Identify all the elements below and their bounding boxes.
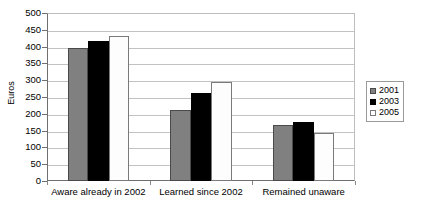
y-axis-tick-label: 0	[36, 176, 41, 186]
y-axis-tick-label: 150	[25, 126, 41, 136]
legend-item[interactable]: 2003	[370, 96, 399, 107]
y-axis-tickmark	[42, 147, 47, 148]
x-axis-tick-label: Remained unaware	[252, 186, 355, 197]
bar	[170, 110, 191, 181]
legend-swatch-icon	[370, 88, 376, 94]
legend-swatch-icon	[370, 110, 376, 116]
x-axis-tick-label: Learned since 2002	[150, 186, 253, 197]
bar-chart: Euros 500450400350300250200150100500 Awa…	[0, 0, 421, 215]
legend-item-label: 2001	[379, 86, 399, 95]
x-axis-tick-labels: Aware already in 2002Learned since 2002R…	[47, 186, 355, 206]
x-axis-tickmark	[47, 181, 48, 185]
y-axis-tickmark	[42, 131, 47, 132]
y-axis-tickmark	[42, 13, 47, 14]
y-axis-tick-label: 500	[25, 8, 41, 18]
y-axis-tick-labels: 500450400350300250200150100500	[0, 0, 44, 215]
y-axis-tick-label: 250	[25, 92, 41, 102]
y-axis-tickmark	[42, 63, 47, 64]
bar	[109, 36, 130, 181]
y-axis-tick-label: 100	[25, 142, 41, 152]
y-axis-tickmark	[42, 164, 47, 165]
bars-layer	[47, 13, 355, 181]
bar	[273, 125, 294, 181]
x-axis-tickmark	[150, 181, 151, 185]
legend-item-label: 2003	[379, 97, 399, 106]
y-axis-tick-label: 450	[25, 25, 41, 35]
y-axis-tickmark	[42, 80, 47, 81]
y-axis-tickmark	[42, 30, 47, 31]
y-axis-tickmark	[42, 47, 47, 48]
x-axis-tick-label: Aware already in 2002	[47, 186, 150, 197]
x-axis-tickmark	[252, 181, 253, 185]
x-axis-tickmark	[355, 181, 356, 185]
legend-item-label: 2005	[379, 108, 399, 117]
bar	[191, 93, 212, 181]
legend-item[interactable]: 2005	[370, 107, 399, 118]
y-axis-tick-label: 300	[25, 75, 41, 85]
bar	[293, 122, 314, 181]
legend: 2001 2003 2005	[366, 81, 404, 122]
bar	[211, 82, 232, 181]
bar	[68, 48, 89, 181]
y-axis-tick-label: 50	[30, 159, 41, 169]
legend-item[interactable]: 2001	[370, 85, 399, 96]
y-axis-tickmark	[42, 97, 47, 98]
bar	[88, 41, 109, 181]
legend-swatch-icon	[370, 99, 376, 105]
y-axis-tick-label: 350	[25, 58, 41, 68]
y-axis-tick-label: 200	[25, 109, 41, 119]
y-axis-tickmark	[42, 114, 47, 115]
bar	[314, 133, 335, 181]
y-axis-tick-label: 400	[25, 42, 41, 52]
